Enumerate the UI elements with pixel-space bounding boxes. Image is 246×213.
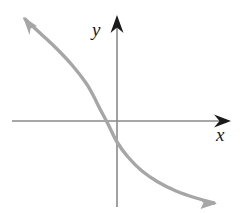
- graph-figure: y x: [0, 0, 246, 213]
- y-axis-label: y: [90, 19, 101, 40]
- x-axis-label: x: [215, 124, 225, 145]
- exponential-decay-curve: [25, 19, 214, 203]
- curve-start-arrowhead-icon: [23, 17, 37, 35]
- coordinate-plane-svg: y x: [0, 0, 246, 213]
